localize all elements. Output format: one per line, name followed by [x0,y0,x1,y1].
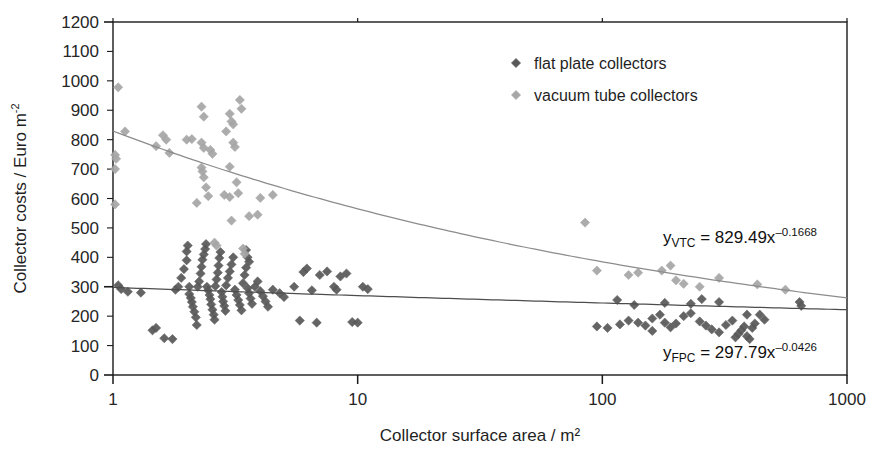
data-point [630,300,639,309]
data-point [295,316,304,325]
data-point [168,335,177,344]
data-point [742,310,751,319]
data-point [237,104,246,113]
data-point [624,270,633,279]
data-point [240,270,249,279]
data-point [603,323,612,332]
x-axis-title: Collector surface area / m² [380,426,581,445]
y-tick-label: 1000 [61,72,99,91]
chart-canvas: 0100200300400500600700800900100011001200… [0,0,887,472]
x-tick-label: 100 [588,390,616,409]
data-point [660,298,669,307]
y-tick-label: 1100 [62,42,99,61]
y-tick-label: 900 [71,101,99,120]
data-point [234,189,243,198]
data-point [177,273,186,282]
x-tick-label: 1000 [828,390,866,409]
y-tick-label: 500 [71,219,99,238]
data-point [312,318,321,327]
legend: flat plate collectorsvacuum tube collect… [511,55,697,104]
x-tick-label: 1 [108,390,117,409]
y-axis: 0100200300400500600700800900100011001200 [61,13,113,385]
data-point [235,95,244,104]
data-point [197,102,206,111]
y-axis-title: Collector costs / Euro m-2 [9,103,30,293]
data-point [111,164,120,173]
data-point [136,288,145,297]
legend-marker [511,58,520,67]
data-point [229,253,238,262]
data-point [697,295,706,304]
y-tick-label: 1200 [61,13,99,32]
data-point [714,297,723,306]
data-point [192,320,201,329]
data-point [227,216,236,225]
data-point [753,280,762,289]
data-point [592,322,601,331]
data-point [624,316,633,325]
y-tick-label: 0 [90,366,99,385]
data-point [245,212,254,221]
data-point [214,261,223,270]
data-point [227,260,236,269]
y-tick-label: 300 [71,278,99,297]
y-tick-label: 400 [71,248,99,267]
data-point [290,282,299,291]
data-point [655,310,664,319]
data-point [160,334,169,343]
data-point [199,112,208,121]
vtc-equation: yVTC = 829.49x–0.1668 [663,226,817,250]
data-point [695,282,704,291]
collector-cost-scatter-chart: 0100200300400500600700800900100011001200… [0,0,887,472]
y-tick-label: 600 [71,190,99,209]
data-point [222,127,231,136]
legend-label: vacuum tube collectors [534,87,698,104]
trendline-vtc [113,131,847,298]
data-point [657,266,666,275]
fpc-equation-text: yFPC = 297.79x–0.0426 [663,341,817,365]
legend-label: flat plate collectors [534,55,667,72]
data-point [633,268,642,277]
vtc-equation-text: yVTC = 829.49x–0.1668 [663,226,817,250]
data-point [666,261,675,270]
data-point [225,162,234,171]
data-point [580,218,589,227]
data-point [192,198,201,207]
data-point [686,299,695,308]
data-point [232,178,241,187]
data-point [648,314,657,323]
legend-marker [511,90,520,99]
y-tick-label: 200 [71,307,99,326]
data-point [268,190,277,199]
data-point [648,326,657,335]
series-points-vtc [111,83,790,295]
y-tick-label: 700 [71,160,99,179]
data-point [201,183,210,192]
data-point [615,320,624,329]
data-point [182,256,191,265]
data-point [253,210,262,219]
data-point [114,83,123,92]
y-axis-title-text: Collector costs / Euro m-2 [9,103,30,293]
x-tick-label: 10 [348,390,367,409]
data-point [111,200,120,209]
y-tick-label: 800 [71,131,99,150]
fpc-equation: yFPC = 297.79x–0.0426 [663,341,817,365]
data-point [204,192,213,201]
y-tick-label: 100 [71,337,99,356]
data-point [592,266,601,275]
data-point [225,109,234,118]
data-point [256,193,265,202]
data-point [179,265,188,274]
